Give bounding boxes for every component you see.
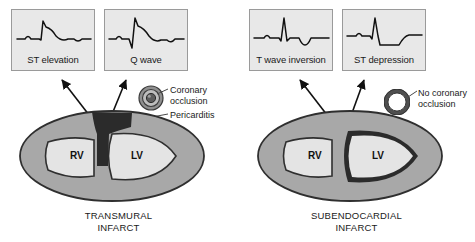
q-wave-waveform (105, 12, 189, 52)
chamber-label-rv: RV (308, 150, 322, 161)
ecg-label-q-wave: Q wave (105, 54, 187, 65)
caption-subendocardial-infarct: SUBENDOCARDIAL INFARCT (238, 210, 475, 233)
panel-transmural-infarct: ST elevation Q wave (0, 0, 237, 242)
callout-no-coronary-line1: No coronary (418, 88, 467, 98)
caption-transmural-infarct: TRANSMURAL INFARCT (0, 210, 237, 233)
chamber-label-rv: RV (70, 150, 84, 161)
chamber-label-lv: LV (131, 150, 143, 161)
callout-coronary-occlusion: Coronary occlusion (170, 85, 208, 106)
panel-subendocardial-infarct: T wave inversion ST depression (238, 0, 475, 242)
st-elevation-waveform (12, 12, 96, 52)
ecg-label-t-wave-inversion: T wave inversion (250, 54, 332, 65)
ecg-box-t-wave-inversion: T wave inversion (249, 9, 333, 71)
caption-line1: TRANSMURAL (0, 210, 237, 222)
heart-cross-section-subendocardial (238, 104, 475, 209)
t-wave-inversion-waveform (250, 12, 334, 52)
figure-root: ST elevation Q wave (0, 0, 475, 242)
ecg-box-st-elevation: ST elevation (11, 9, 95, 71)
caption-line2: INFARCT (0, 222, 237, 234)
st-depression-waveform (343, 12, 427, 52)
caption-line1: SUBENDOCARDIAL (238, 210, 475, 222)
ecg-label-st-depression: ST depression (343, 54, 425, 65)
chamber-label-lv: LV (372, 150, 384, 161)
heart-cross-section-transmural (0, 104, 237, 209)
ecg-box-st-depression: ST depression (342, 9, 426, 71)
ecg-box-q-wave: Q wave (104, 9, 188, 71)
caption-line2: INFARCT (238, 222, 475, 234)
callout-coronary-line1: Coronary (170, 85, 207, 95)
ecg-label-st-elevation: ST elevation (12, 54, 94, 65)
